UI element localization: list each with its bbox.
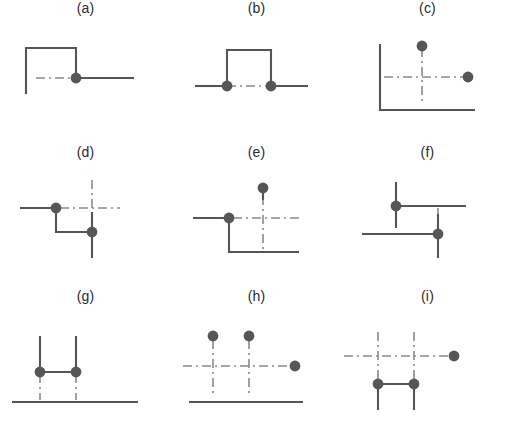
panel-graphic-g xyxy=(0,310,171,432)
marker-dot-g-0 xyxy=(35,367,46,378)
panel-a: (a) xyxy=(0,0,171,144)
marker-dot-c-1 xyxy=(463,72,474,83)
panel-canvas-g xyxy=(0,310,171,432)
marker-dot-f-1 xyxy=(433,229,444,240)
panel-canvas-e xyxy=(171,166,342,288)
panel-g: (g) xyxy=(0,288,171,432)
marker-dot-e-1 xyxy=(258,183,269,194)
panel-canvas-f xyxy=(342,166,513,288)
panel-label-g: (g) xyxy=(0,288,171,304)
panel-graphic-h xyxy=(171,310,342,432)
panel-label-c: (c) xyxy=(342,0,513,16)
panel-label-h: (h) xyxy=(171,288,342,304)
marker-dot-i-1 xyxy=(409,379,420,390)
marker-dot-g-1 xyxy=(71,367,82,378)
panel-f: (f) xyxy=(342,144,513,288)
marker-dot-d-0 xyxy=(51,203,62,214)
marker-dot-i-2 xyxy=(449,351,460,362)
marker-dot-h-2 xyxy=(290,361,301,372)
panel-i: (i) xyxy=(342,288,513,432)
panel-label-b: (b) xyxy=(171,0,342,16)
marker-dot-a-0 xyxy=(71,73,82,84)
solid-line-b-1 xyxy=(227,50,271,86)
panel-graphic-i xyxy=(342,310,513,432)
marker-dot-f-0 xyxy=(391,201,402,212)
panel-e: (e) xyxy=(171,144,342,288)
marker-dot-c-0 xyxy=(417,41,428,52)
marker-dot-b-1 xyxy=(266,81,277,92)
panel-label-d: (d) xyxy=(0,144,171,160)
solid-line-a-0 xyxy=(26,48,76,94)
solid-line-e-1 xyxy=(229,218,299,252)
panel-h: (h) xyxy=(171,288,342,432)
panel-d: (d) xyxy=(0,144,171,288)
marker-dot-e-0 xyxy=(224,213,235,224)
marker-dot-h-0 xyxy=(208,331,219,342)
panel-canvas-i xyxy=(342,310,513,432)
panel-label-a: (a) xyxy=(0,0,171,16)
figure-panel-grid: (a)(b)(c)(d)(e)(f)(g)(h)(i) xyxy=(0,0,513,432)
marker-dot-d-1 xyxy=(87,227,98,238)
panel-label-e: (e) xyxy=(171,144,342,160)
panel-canvas-d xyxy=(0,166,171,288)
panel-graphic-d xyxy=(0,166,171,288)
panel-graphic-f xyxy=(342,166,513,288)
panel-graphic-c xyxy=(342,22,513,144)
marker-dot-i-0 xyxy=(373,379,384,390)
panel-label-i: (i) xyxy=(342,288,513,304)
panel-graphic-e xyxy=(171,166,342,288)
panel-canvas-a xyxy=(0,22,171,144)
panel-b: (b) xyxy=(171,0,342,144)
panel-c: (c) xyxy=(342,0,513,144)
panel-canvas-b xyxy=(171,22,342,144)
panel-graphic-a xyxy=(0,22,171,144)
panel-canvas-h xyxy=(171,310,342,432)
panel-graphic-b xyxy=(171,22,342,144)
marker-dot-h-1 xyxy=(244,331,255,342)
solid-line-d-1 xyxy=(56,208,92,232)
panel-label-f: (f) xyxy=(342,144,513,160)
panel-canvas-c xyxy=(342,22,513,144)
marker-dot-b-0 xyxy=(222,81,233,92)
